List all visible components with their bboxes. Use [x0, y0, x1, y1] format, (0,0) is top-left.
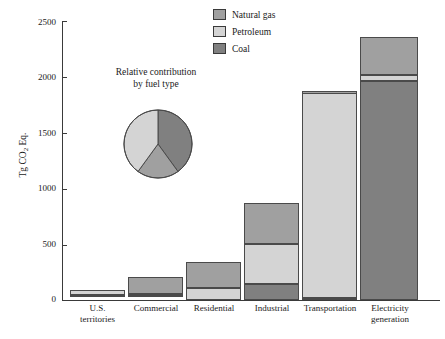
legend-swatch-coal: [213, 43, 226, 54]
bar-segment-coal: [360, 81, 418, 300]
y-axis-title-main: Tg CO: [18, 151, 28, 177]
legend-label-coal: Coal: [232, 44, 250, 54]
pie-chart-inset: [122, 108, 194, 180]
legend: Natural gas Petroleum Coal: [213, 6, 276, 57]
bar-segment-coal: [70, 295, 125, 297]
y-axis-title-sub: 2: [22, 148, 30, 152]
y-tick-mark-500: [63, 245, 67, 246]
x-label-electricity-generation: Electricity generation: [358, 303, 422, 325]
y-tick-500: 500: [22, 239, 56, 249]
y-tick-2500: 2500: [22, 17, 56, 27]
y-tick-2000: 2000: [22, 72, 56, 82]
legend-item-coal[interactable]: Coal: [213, 40, 276, 57]
legend-label-petroleum: Petroleum: [232, 27, 271, 37]
x-label-line1: Transportation: [292, 303, 368, 314]
bar-segment-natural-gas: [360, 37, 418, 74]
pie-title-line2: by fuel type: [92, 78, 220, 90]
y-tick-mark-1500: [63, 133, 67, 134]
bar-segment-coal: [128, 295, 183, 297]
legend-swatch-petroleum: [213, 26, 226, 37]
x-axis-spine: [62, 300, 440, 301]
x-label-line1: U.S.: [70, 303, 125, 314]
pie-title-line1: Relative contribution: [92, 66, 220, 78]
bar-segment-natural-gas: [244, 203, 299, 244]
x-label-line2: territories: [70, 314, 125, 325]
y-tick-1000: 1000: [22, 183, 56, 193]
bar-segment-coal: [244, 284, 299, 300]
x-label-line2: generation: [358, 314, 422, 325]
bar-segment-coal: [302, 298, 357, 300]
bar-segment-natural-gas: [186, 262, 241, 288]
bar-segment-natural-gas: [302, 91, 357, 94]
pie-svg: [122, 108, 194, 180]
y-tick-0: 0: [22, 294, 56, 304]
y-axis-spine: [62, 21, 63, 301]
legend-swatch-natural-gas: [213, 9, 226, 20]
legend-item-petroleum[interactable]: Petroleum: [213, 23, 276, 40]
y-tick-mark-1000: [63, 189, 67, 190]
bar-segment-petroleum: [70, 290, 125, 295]
legend-item-natural-gas[interactable]: Natural gas: [213, 6, 276, 23]
x-label-transportation: Transportation: [292, 303, 368, 314]
y-tick-mark-2500: [63, 21, 67, 22]
bar-segment-petroleum: [360, 75, 418, 81]
bar-segment-petroleum: [186, 288, 241, 300]
pie-title: Relative contribution by fuel type: [92, 66, 220, 90]
x-label-line1: Electricity: [358, 303, 422, 314]
legend-label-natural-gas: Natural gas: [232, 10, 276, 20]
y-tick-mark-2000: [63, 77, 67, 78]
bar-segment-natural-gas: [128, 277, 183, 294]
bar-segment-petroleum: [244, 244, 299, 284]
y-tick-1500: 1500: [22, 128, 56, 138]
bar-segment-petroleum: [302, 93, 357, 298]
chart-figure: Tg CO2 Eq. 2500 2000 1500 1000 500 0 Nat…: [0, 0, 445, 339]
x-label-us-territories: U.S. territories: [70, 303, 125, 325]
